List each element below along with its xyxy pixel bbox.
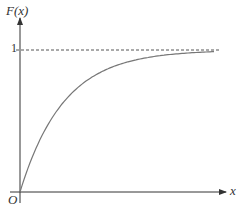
cdf-chart — [0, 0, 241, 207]
y-tick-1: 1 — [11, 42, 17, 54]
y-axis-label: F(x) — [6, 4, 28, 17]
origin-label: O — [8, 193, 17, 206]
x-axis-label: x — [230, 184, 236, 197]
cdf-curve — [20, 52, 214, 192]
